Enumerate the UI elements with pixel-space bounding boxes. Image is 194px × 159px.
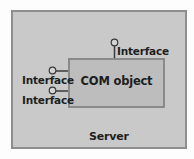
com-object-box: COM object [68, 58, 165, 108]
interface-left1-label: Interface [22, 74, 74, 86]
interface-top-label: Interface [117, 45, 169, 57]
com-object-label: COM object [70, 74, 163, 88]
interface-left2-label: Interface [22, 94, 74, 106]
server-label: Server [89, 130, 129, 143]
